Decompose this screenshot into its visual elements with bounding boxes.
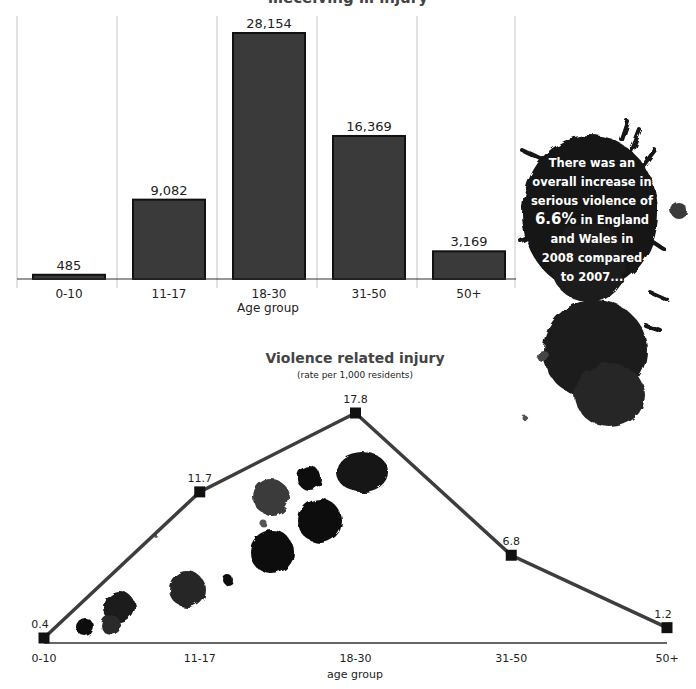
line-x-tick-label: 50+: [655, 652, 678, 665]
ink-drop: [260, 520, 267, 527]
ink-splat: [297, 466, 321, 490]
line-data-label: 6.8: [503, 535, 521, 548]
ink-blot: [575, 363, 645, 427]
line-marker-50+: [662, 622, 673, 633]
bar-18-30: [233, 33, 305, 279]
ink-splat: [101, 615, 121, 635]
ink-splat: [223, 575, 233, 585]
callout-highlight: 6.6%: [535, 210, 577, 228]
line-x-tick-label: 11-17: [184, 652, 216, 665]
infographic-canvas: …eceiving … injury 4859,08228,15416,3693…: [0, 0, 696, 689]
line-x-tick-label: 31-50: [495, 652, 527, 665]
ink-splat: [250, 530, 294, 574]
line-marker-11-17: [194, 486, 205, 497]
ink-splat: [298, 499, 342, 543]
callout-line: There was an: [549, 156, 636, 170]
bar-x-tick-label: 11-17: [152, 287, 187, 301]
line-marker-18-30: [350, 408, 361, 419]
bar-x-tick-label: 50+: [456, 287, 481, 301]
callout-line: and Wales in: [551, 232, 634, 246]
line-x-tick-label: 18-30: [340, 652, 372, 665]
ink-drop: [523, 416, 528, 421]
callout-line: serious violence of: [531, 194, 654, 208]
callout-text: There was anoverall increase inserious v…: [531, 156, 654, 284]
bar-x-tick-label: 0-10: [55, 287, 82, 301]
bar-31-50: [333, 136, 405, 279]
bar-x-tick-label: 31-50: [352, 287, 387, 301]
ink-splat: [336, 452, 388, 492]
bar-data-label: 485: [57, 258, 82, 273]
callout-line: 2008 compared: [542, 251, 642, 265]
bar-x-tick-label: 18-30: [252, 287, 287, 301]
line-x-tick-label: 0-10: [32, 652, 57, 665]
callout-line-rest: in England: [577, 213, 650, 227]
line-chart-series: [44, 413, 667, 638]
bar-11-17: [133, 200, 205, 279]
ink-splat: [169, 571, 205, 607]
ink-splat: [253, 479, 289, 515]
line-data-label: 11.7: [188, 472, 213, 485]
line-chart-x-ticks: 0-1011-1718-3031-5050+: [32, 652, 679, 665]
bar-data-label: 3,169: [450, 234, 487, 249]
decorative-ink-splats: [76, 452, 388, 636]
ink-drop: [670, 202, 686, 218]
line-series-path: [44, 413, 667, 638]
bar-chart-bars: [33, 33, 505, 279]
line-chart-title: Violence related injury: [265, 350, 444, 366]
line-data-label: 17.8: [343, 393, 368, 406]
ink-drop: [537, 350, 549, 362]
bar-chart-x-axis-label: Age group: [237, 301, 299, 315]
bar-data-label: 16,369: [346, 119, 392, 134]
bar-0-10: [33, 275, 105, 279]
bar-50+: [433, 251, 505, 279]
line-marker-31-50: [506, 550, 517, 561]
callout-line: to 2007...: [561, 270, 624, 284]
bar-chart-title: …eceiving … injury: [268, 0, 428, 7]
ink-splat: [76, 618, 94, 636]
line-data-label: 0.4: [31, 618, 49, 631]
line-data-label: 1.2: [654, 608, 672, 621]
line-chart-subtitle: (rate per 1,000 residents): [297, 370, 413, 380]
callout-line: 6.6% in England: [535, 210, 649, 228]
bar-chart-x-ticks: 0-1011-1718-3031-5050+: [55, 287, 481, 301]
bar-data-label: 28,154: [246, 16, 292, 31]
callout-line: overall increase in: [532, 175, 651, 189]
line-marker-0-10: [39, 633, 50, 644]
line-chart-x-axis-label: age group: [327, 668, 383, 681]
bar-data-label: 9,082: [150, 183, 187, 198]
